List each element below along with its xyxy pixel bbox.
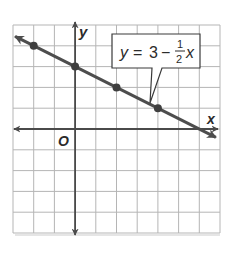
equation-equals: =: [133, 44, 142, 61]
data-point: [154, 104, 162, 112]
data-point: [30, 42, 38, 50]
x-axis-label: x: [206, 111, 216, 127]
equation-fraction-denominator: 2: [176, 53, 182, 65]
equation-fraction-numerator: 1: [177, 38, 183, 50]
data-point: [71, 63, 79, 71]
y-axis-label: y: [78, 23, 88, 40]
coordinate-plane: y = 3 − 1 2 x y x O: [0, 0, 228, 254]
equation-lhs: y: [119, 44, 129, 61]
equation-minus: −: [161, 44, 170, 61]
equation-constant: 3: [149, 44, 158, 61]
data-point: [113, 83, 121, 91]
origin-label: O: [58, 133, 69, 149]
equation-variable: x: [185, 44, 195, 61]
